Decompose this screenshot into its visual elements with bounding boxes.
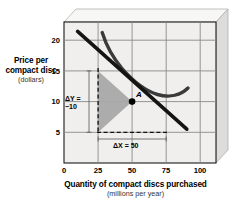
delta-y-line2: −10 bbox=[65, 103, 77, 110]
delta-y-line1: ΔY = bbox=[65, 95, 81, 102]
y-axis-title: Price per compact disc (dollars) bbox=[0, 56, 62, 84]
y-axis-title-units: (dollars) bbox=[0, 76, 62, 84]
delta-y-annotation: ΔY = −10 bbox=[65, 95, 81, 111]
slab-top-bevel bbox=[64, 9, 228, 22]
x-axis-title-units: (millions per year) bbox=[38, 190, 233, 199]
x-tick-25: 25 bbox=[89, 166, 107, 175]
slab-right-bevel bbox=[216, 9, 228, 163]
y-tick-10: 10 bbox=[44, 97, 60, 106]
point-a-label: A bbox=[136, 90, 142, 99]
point-a-marker bbox=[129, 98, 136, 105]
x-tick-0: 0 bbox=[55, 166, 73, 175]
x-tick-75: 75 bbox=[157, 166, 175, 175]
y-axis-title-main: Price per compact disc bbox=[0, 56, 62, 75]
delta-x-annotation: ΔX = 50 bbox=[113, 142, 138, 150]
y-tick-5: 5 bbox=[44, 128, 60, 137]
x-tick-100: 100 bbox=[191, 166, 209, 175]
y-tick-20: 20 bbox=[44, 36, 60, 45]
x-tick-50: 50 bbox=[123, 166, 141, 175]
x-axis-title: Quantity of compact discs purchased (mil… bbox=[38, 180, 233, 199]
